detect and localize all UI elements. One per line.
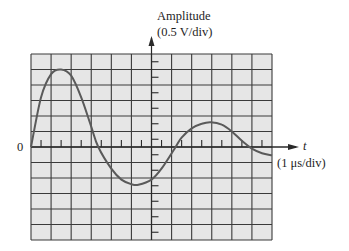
x-axis-units: (1 μs/div) [277,156,326,170]
x-axis-arrow-icon [288,144,299,150]
y-axis-label: Amplitude [157,9,210,23]
x-axis-label: t [303,139,306,153]
origin-label: 0 [17,140,23,154]
y-axis-arrow-icon [149,36,155,46]
y-axis-units: (0.5 V/div) [157,25,212,39]
